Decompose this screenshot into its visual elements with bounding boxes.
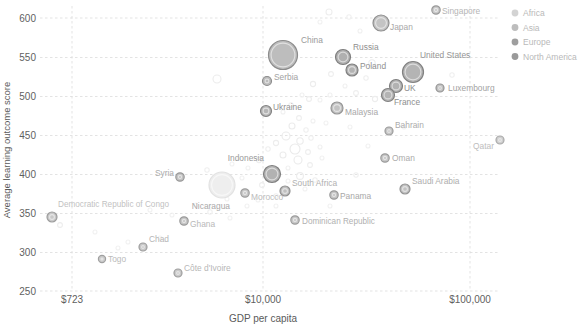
bubble-democratic-republic-of-congo[interactable] bbox=[47, 212, 57, 222]
bubble-ukraine[interactable] bbox=[261, 106, 272, 117]
bubble-fill[interactable] bbox=[139, 243, 147, 251]
background-bubble bbox=[273, 140, 278, 145]
bubble-fill[interactable] bbox=[180, 217, 188, 225]
background-bubble bbox=[126, 240, 130, 244]
bubble-label-malaysia: Malaysia bbox=[345, 107, 378, 117]
bubble-singapore[interactable] bbox=[432, 6, 440, 14]
scatter-chart: Average learning outcome score 600550500… bbox=[0, 0, 579, 327]
bubble-fill[interactable] bbox=[385, 127, 393, 135]
bubble-fill[interactable] bbox=[269, 41, 298, 70]
bubble-france[interactable] bbox=[382, 89, 395, 102]
bubble-china[interactable] bbox=[269, 41, 298, 70]
background-bubble bbox=[320, 156, 324, 160]
bubble-label-ukraine: Ukraine bbox=[273, 102, 302, 112]
bubble-fill[interactable] bbox=[261, 106, 272, 117]
bubble-fill[interactable] bbox=[432, 6, 440, 14]
bubble-japan[interactable] bbox=[373, 15, 389, 31]
bubble-fill[interactable] bbox=[496, 136, 504, 144]
bubble-fill[interactable] bbox=[291, 216, 299, 224]
background-bubble bbox=[358, 29, 362, 33]
bubble-qatar[interactable] bbox=[496, 136, 504, 144]
x-tick-label: $100,000 bbox=[449, 294, 491, 305]
bubble-indonesia[interactable] bbox=[264, 166, 281, 183]
bubble-fill[interactable] bbox=[209, 172, 235, 198]
bubble-label-panama: Panama bbox=[340, 191, 372, 201]
background-bubble bbox=[205, 168, 209, 172]
bubble-serbia[interactable] bbox=[263, 77, 272, 86]
bubble-bahrain[interactable] bbox=[385, 127, 393, 135]
legend-item-africa[interactable]: Africa bbox=[512, 8, 545, 18]
legend-item-north-america[interactable]: North America bbox=[512, 52, 578, 62]
bubble-fill[interactable] bbox=[381, 154, 389, 162]
background-bubble bbox=[286, 179, 290, 183]
background-bubble bbox=[274, 204, 278, 208]
bubble-fill[interactable] bbox=[47, 212, 57, 222]
background-bubble bbox=[309, 136, 313, 140]
legend-item-asia[interactable]: Asia bbox=[512, 23, 540, 33]
bubble-luxembourg[interactable] bbox=[436, 84, 444, 92]
background-bubble bbox=[58, 223, 63, 228]
bubble-fill[interactable] bbox=[346, 64, 358, 76]
bubble-label-democratic-republic-of-congo: Democratic Republic of Congo bbox=[58, 200, 169, 209]
bubble-dominican-republic[interactable] bbox=[291, 216, 299, 224]
bubble-fill[interactable] bbox=[331, 102, 343, 114]
bubble-syria[interactable] bbox=[176, 173, 184, 181]
bubble-nicaragua[interactable] bbox=[209, 172, 235, 198]
background-bubble bbox=[245, 204, 249, 208]
legend-item-europe[interactable]: Europe bbox=[512, 37, 551, 47]
legend-label: North America bbox=[523, 52, 577, 62]
bubble-united-states[interactable] bbox=[403, 62, 424, 83]
bubble-label-indonesia: Indonesia bbox=[228, 153, 265, 163]
background-bubble bbox=[450, 73, 454, 77]
legend-swatch bbox=[512, 10, 519, 17]
background-bubble bbox=[266, 147, 270, 151]
bubble-fill[interactable] bbox=[98, 255, 105, 262]
background-bubble bbox=[304, 128, 308, 132]
bubble-label-chad: Chad bbox=[149, 234, 169, 244]
bubble-russia[interactable] bbox=[336, 50, 351, 65]
bubble-fill[interactable] bbox=[330, 191, 338, 199]
bubble-fill[interactable] bbox=[263, 77, 272, 86]
background-bubble bbox=[213, 75, 221, 83]
bubble-poland[interactable] bbox=[346, 64, 358, 76]
bubble-togo[interactable] bbox=[98, 255, 105, 262]
bubble-morocco[interactable] bbox=[241, 189, 249, 197]
bubble-ghana[interactable] bbox=[180, 217, 188, 225]
background-bubble bbox=[343, 84, 347, 88]
y-tick-label: 250 bbox=[19, 286, 36, 297]
y-tick-label: 450 bbox=[19, 130, 36, 141]
background-bubble bbox=[308, 163, 313, 168]
y-tick-label: 600 bbox=[19, 13, 36, 24]
background-bubble bbox=[286, 166, 290, 170]
bubble-panama[interactable] bbox=[330, 191, 338, 199]
bubble-fill[interactable] bbox=[176, 173, 184, 181]
y-axis-ticks: 600550500450400350300250 bbox=[19, 13, 36, 297]
background-bubble bbox=[289, 123, 295, 129]
bubble-fill[interactable] bbox=[241, 189, 249, 197]
background-bubble bbox=[348, 125, 352, 129]
bubble-oman[interactable] bbox=[381, 154, 389, 162]
background-bubble bbox=[246, 166, 250, 170]
bubble-chad[interactable] bbox=[139, 243, 147, 251]
bubble-fill[interactable] bbox=[382, 89, 395, 102]
bubble-label-bahrain: Bahrain bbox=[395, 120, 424, 130]
legend-swatch bbox=[512, 53, 519, 60]
y-tick-label: 500 bbox=[19, 91, 36, 102]
bubble-fill[interactable] bbox=[436, 84, 444, 92]
bubble-label-united-states: United States bbox=[420, 50, 470, 60]
background-bubble bbox=[318, 145, 322, 149]
bubble-fill[interactable] bbox=[400, 184, 410, 194]
legend[interactable]: AfricaAsiaEuropeNorth America bbox=[512, 8, 578, 62]
bubbles[interactable] bbox=[47, 6, 504, 277]
bubble-label-serbia: Serbia bbox=[274, 72, 299, 82]
background-bubble bbox=[297, 138, 303, 144]
legend-label: Asia bbox=[523, 23, 540, 33]
bubble-malaysia[interactable] bbox=[331, 102, 343, 114]
bubble-saudi-arabia[interactable] bbox=[400, 184, 410, 194]
bubble-c-te-d-ivoire[interactable] bbox=[174, 269, 182, 277]
bubble-label-singapore: Singapore bbox=[442, 6, 481, 16]
background-bubble bbox=[310, 81, 315, 86]
background-bubble bbox=[354, 91, 359, 96]
background-bubble bbox=[311, 119, 315, 123]
bubble-fill[interactable] bbox=[174, 269, 182, 277]
